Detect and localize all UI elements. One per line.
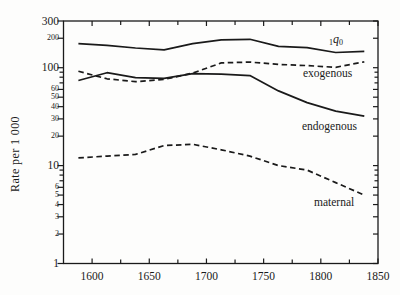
x-tick-label: 1850 [367,270,390,282]
y-tick-label: 10 [48,160,60,171]
y-tick-label: 5 [55,191,59,199]
y-tick-label: 40 [51,103,59,111]
series-line-1q0 [78,39,364,52]
x-tick-label: 1650 [138,270,161,282]
y-tick-label: 1 [53,258,59,269]
y-tick-label: 30 [51,115,59,123]
plot-frame [64,21,379,264]
y-tick-label: 50 [51,93,59,101]
y-tick-label: 300 [42,16,59,27]
y-tick-label: 2 [55,230,59,238]
series-label-maternal: maternal [314,196,354,208]
x-tick-label: 1600 [81,270,104,282]
subscript-0: 0 [339,38,343,47]
infant-mortality-chart: Rate per 1 000 3002001006050403020106543… [0,0,400,295]
y-tick-label: 20 [51,132,59,140]
series-label-exogenous: exogenous [303,67,352,79]
series-line-maternal [78,144,364,195]
y-axis-title: Rate per 1 000 [8,116,23,192]
series-label-endogenous: endogenous [302,120,357,132]
y-tick-label: 200 [47,34,59,42]
series-label-1q0: 1q0 [329,33,343,49]
y-tick-label: 100 [42,62,59,73]
x-tick-label: 1700 [195,270,218,282]
x-tick-label: 1800 [309,270,332,282]
x-tick-label: 1750 [252,270,275,282]
y-tick-label: 3 [55,213,59,221]
series-line-endogenous [78,73,364,117]
y-tick-label: 4 [55,201,59,209]
